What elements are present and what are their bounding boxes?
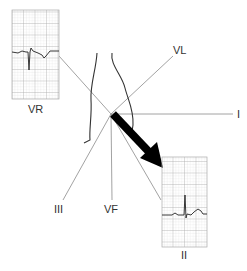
label-i: I [237,109,240,120]
label-vl: VL [173,45,186,56]
label-vf: VF [104,204,118,215]
axis-vl [111,56,173,114]
ecg-strip-vr [12,10,59,99]
axis-vf [111,114,112,200]
label-ii: II [181,250,187,261]
axis-vr [59,56,111,114]
label-vr: VR [28,104,43,115]
lead-diagram [0,0,247,271]
ecg-strip-ii [162,157,207,247]
axis-iii [63,114,111,200]
label-iii: III [54,204,63,215]
